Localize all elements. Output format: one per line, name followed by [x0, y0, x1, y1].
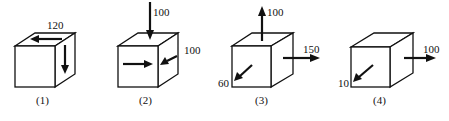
cube-1: 120 (1)	[15, 19, 75, 107]
cube-4-caption: (4)	[373, 94, 386, 107]
cube-3-force-label-top: 100	[267, 6, 284, 18]
cube-2: 100 100 (2)	[118, 2, 201, 107]
stress-cubes-diagram: 120 (1) 100 100 (2)	[0, 0, 449, 121]
cube-4-force-label-front: 10	[338, 77, 350, 89]
cube-2-force-label-right: 100	[184, 44, 201, 56]
cube-3-force-label-front: 60	[218, 77, 230, 89]
cube-3: 100 150 60 (3)	[218, 6, 320, 107]
cube-2-front-face	[118, 46, 158, 87]
cube-3-force-label-right: 150	[303, 43, 320, 55]
cube-2-force-label-top: 100	[153, 6, 170, 18]
cube-1-front-face	[15, 46, 55, 87]
cube-1-caption: (1)	[36, 94, 49, 107]
cube-4: 100 10 (4)	[338, 33, 440, 107]
cube-3-caption: (3)	[255, 94, 268, 107]
cube-4-force-label-right: 100	[423, 43, 440, 55]
cube-2-caption: (2)	[139, 94, 152, 107]
cube-1-force-label-top: 120	[47, 19, 64, 31]
